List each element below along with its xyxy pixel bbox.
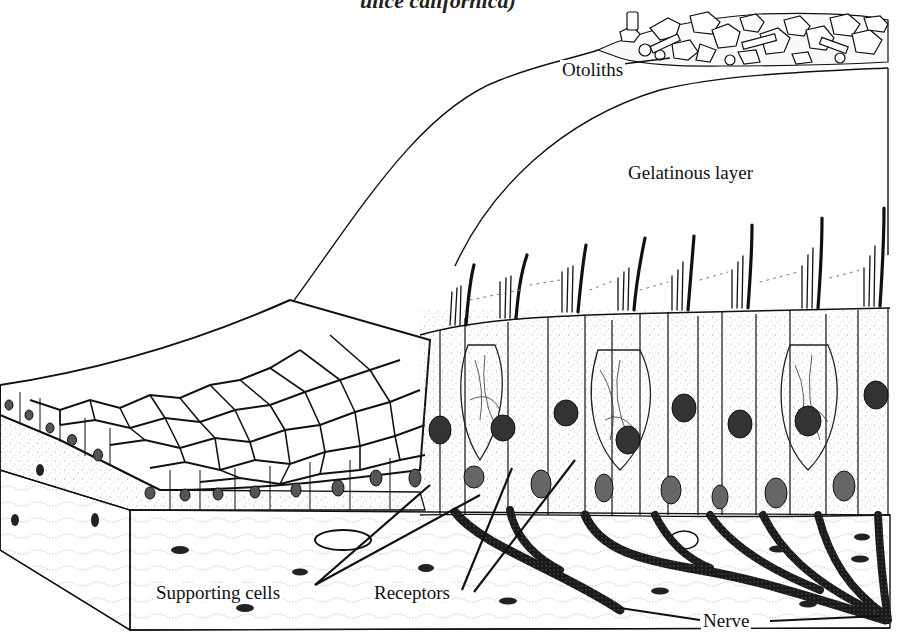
label-gelatinous-layer: Gelatinous layer: [626, 163, 755, 182]
kinocilia: [466, 208, 884, 325]
label-receptors: Receptors: [372, 583, 452, 602]
label-nerve: Nerve: [701, 611, 751, 630]
illustration-drawing: [0, 0, 898, 639]
gelatinous-layer-outline: [290, 50, 888, 306]
hair-bundles: [450, 208, 884, 325]
macula-illustration: ulice californica): [0, 0, 898, 639]
label-supporting-cells: Supporting cells: [154, 583, 282, 602]
label-otoliths: Otoliths: [560, 60, 625, 79]
blood-vessel: [315, 530, 371, 550]
